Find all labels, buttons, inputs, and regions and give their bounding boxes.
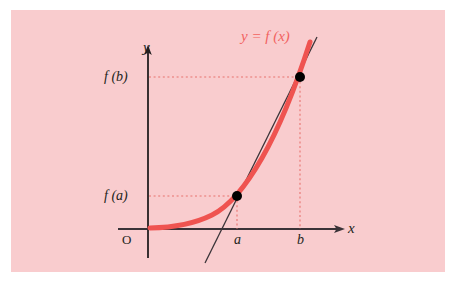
point-b-marker — [295, 72, 305, 82]
point-a-marker — [232, 191, 242, 201]
figure-root: y x f (b) f (a) a b O y = f (x) — [0, 0, 458, 287]
plot-canvas — [0, 0, 458, 287]
function-curve — [150, 42, 310, 228]
